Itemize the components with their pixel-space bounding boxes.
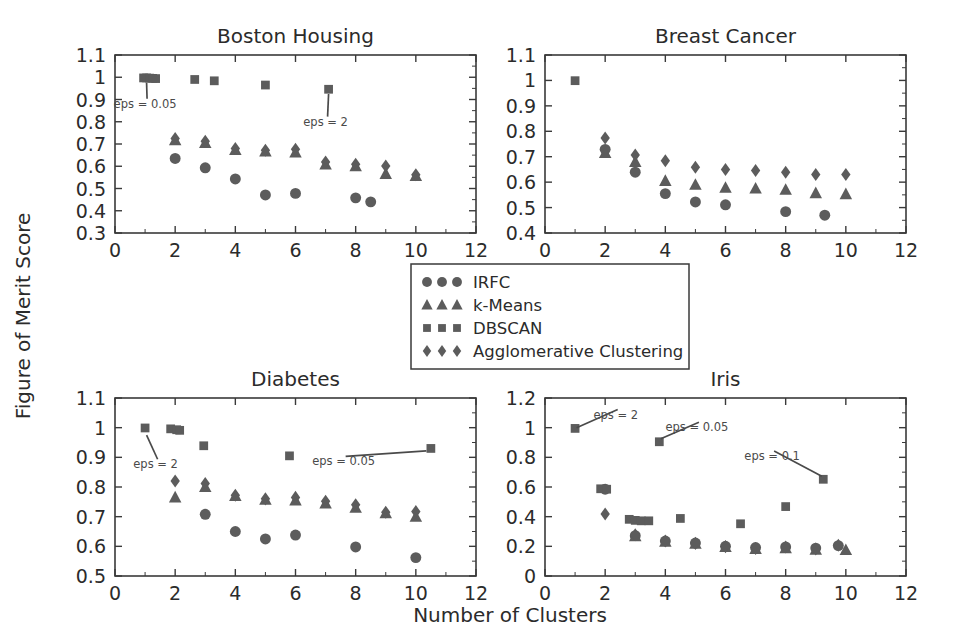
y-tick-label: 0.9 <box>506 95 536 117</box>
x-tick-label: 0 <box>109 582 121 604</box>
data-point <box>661 154 670 167</box>
x-tick-label: 6 <box>289 239 301 261</box>
data-point <box>151 74 160 83</box>
data-point <box>719 181 731 193</box>
legend-label: k-Means <box>473 296 542 315</box>
y-tick-label: 1.1 <box>506 44 536 66</box>
figure-panel: Boston Housing0246810120.30.40.50.60.70.… <box>0 0 965 632</box>
data-point <box>411 505 420 518</box>
y-tick-label: 0.4 <box>506 222 536 244</box>
data-point <box>290 530 301 541</box>
y-tick-label: 0.9 <box>76 89 106 111</box>
data-point <box>841 168 850 181</box>
x-tick-label: 8 <box>780 582 792 604</box>
data-point <box>780 206 791 217</box>
y-tick-label: 0.8 <box>506 120 536 142</box>
data-point <box>290 188 301 199</box>
x-tick-label: 8 <box>350 239 362 261</box>
x-tick-label: 12 <box>464 582 488 604</box>
data-point <box>210 76 219 85</box>
data-point <box>141 424 150 433</box>
data-point <box>190 75 199 84</box>
x-tick-label: 6 <box>719 582 731 604</box>
data-point <box>571 424 580 433</box>
annotation-label: eps = 0.05 <box>114 97 177 111</box>
x-tick-label: 0 <box>539 582 551 604</box>
x-tick-label: 4 <box>229 239 241 261</box>
legend-marker <box>438 324 446 332</box>
y-tick-label: 0.6 <box>506 171 536 193</box>
y-tick-label: 0.7 <box>506 146 536 168</box>
data-point <box>689 178 701 190</box>
series-irfc <box>170 153 376 207</box>
annotation-label: eps = 2 <box>303 115 348 129</box>
y-tick-label: 1.2 <box>506 387 536 409</box>
data-point <box>169 491 181 503</box>
x-tick-label: 0 <box>539 239 551 261</box>
subplot-diabetes: Diabetes0246810120.50.60.70.80.911.1eps … <box>76 367 488 604</box>
data-point <box>230 173 241 184</box>
legend-marker <box>423 324 431 332</box>
y-tick-label: 0.5 <box>76 565 106 587</box>
data-point <box>811 168 820 181</box>
series-dbscan <box>571 76 580 85</box>
data-point <box>736 519 745 528</box>
y-tick-label: 0.4 <box>76 200 106 222</box>
data-point <box>691 161 700 174</box>
data-point <box>840 188 852 200</box>
x-tick-label: 10 <box>404 582 428 604</box>
x-tick-label: 10 <box>834 239 858 261</box>
annotation-label: eps = 0.05 <box>312 454 375 468</box>
y-tick-label: 1 <box>524 417 536 439</box>
x-tick-label: 2 <box>169 239 181 261</box>
y-tick-label: 1 <box>94 66 106 88</box>
x-tick-label: 2 <box>599 239 611 261</box>
x-tick-label: 12 <box>464 239 488 261</box>
x-tick-label: 6 <box>719 239 731 261</box>
y-tick-label: 0.7 <box>76 133 106 155</box>
subplot-title: Iris <box>710 367 740 391</box>
data-point <box>285 451 294 460</box>
x-tick-label: 10 <box>834 582 858 604</box>
annotation-label: eps = 2 <box>133 457 178 471</box>
data-point <box>810 187 822 199</box>
data-point <box>230 526 241 537</box>
data-point <box>631 148 640 161</box>
data-point <box>721 163 730 176</box>
legend-label: Agglomerative Clustering <box>473 342 683 361</box>
data-point <box>644 516 653 525</box>
y-tick-label: 0.3 <box>76 222 106 244</box>
x-tick-label: 4 <box>659 582 671 604</box>
multi-panel-scatter-figure: Boston Housing0246810120.30.40.50.60.70.… <box>0 0 965 632</box>
data-point <box>170 153 181 164</box>
data-point <box>749 182 761 194</box>
y-tick-label: 0.4 <box>506 506 536 528</box>
legend-label: DBSCAN <box>473 319 542 338</box>
data-point <box>410 552 421 563</box>
annotation-leader <box>328 94 329 117</box>
x-tick-label: 10 <box>404 239 428 261</box>
data-point <box>260 533 271 544</box>
x-tick-label: 12 <box>894 239 918 261</box>
series-dbscan <box>571 424 828 528</box>
data-point <box>260 189 271 200</box>
y-tick-label: 0.5 <box>506 197 536 219</box>
subplot-iris: Iris02468101200.20.40.60.811.2eps = 2eps… <box>506 367 918 604</box>
data-point <box>720 199 731 210</box>
data-point <box>427 444 436 453</box>
data-point <box>630 167 641 178</box>
legend-marker <box>452 277 462 287</box>
series-dbscan <box>141 424 436 461</box>
data-point <box>779 183 791 195</box>
data-point <box>350 192 361 203</box>
data-point <box>690 197 701 208</box>
data-point <box>602 485 611 494</box>
subplot-title: Boston Housing <box>217 24 374 48</box>
x-tick-label: 0 <box>109 239 121 261</box>
data-point <box>660 188 671 199</box>
data-point <box>350 541 361 552</box>
data-point <box>175 426 184 435</box>
data-point <box>819 210 830 221</box>
x-tick-label: 4 <box>659 239 671 261</box>
y-tick-label: 0.6 <box>76 535 106 557</box>
